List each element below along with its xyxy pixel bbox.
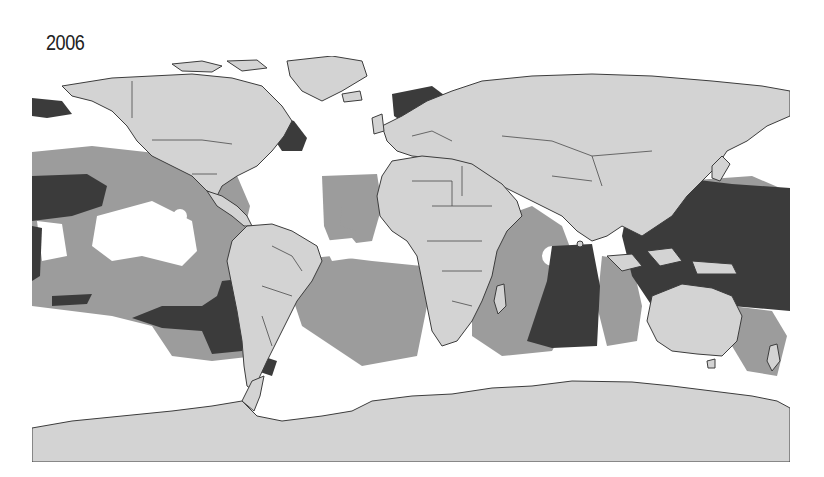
world-map	[32, 56, 790, 462]
world-map-canvas	[32, 56, 790, 462]
year-label: 2006	[46, 30, 85, 56]
